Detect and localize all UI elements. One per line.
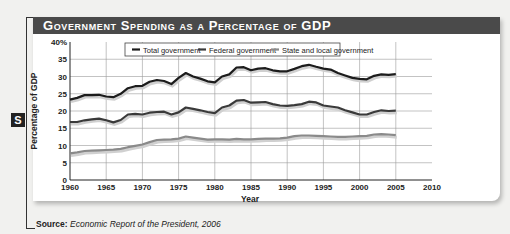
x-tick-label: 1980 — [206, 183, 224, 192]
source-label: Source: — [36, 219, 68, 229]
y-tick-label: 30 — [58, 73, 67, 82]
x-tick-label: 1985 — [242, 183, 260, 192]
y-tick-label: 35 — [58, 55, 67, 64]
series-line-0 — [70, 65, 396, 100]
x-tick-label: 1970 — [134, 183, 152, 192]
y-tick-label: 20 — [58, 107, 67, 116]
x-tick-label: 1965 — [97, 183, 115, 192]
x-tick-label: 2005 — [387, 183, 405, 192]
y-tick-label: 15 — [58, 124, 67, 133]
x-axis-label: Year — [241, 194, 260, 204]
x-tick-label: 1990 — [278, 183, 296, 192]
series-lines — [70, 65, 397, 156]
source-text: Economic Report of the President, 2006 — [70, 219, 221, 229]
y-tick-label: 25 — [58, 90, 67, 99]
x-tick-labels: 1960196519701975198019851990199520002005… — [61, 183, 441, 192]
x-tick-label: 1995 — [315, 183, 333, 192]
legend-item: Federal government — [209, 46, 277, 55]
legend-item: Total government — [143, 46, 201, 55]
x-tick-label: 1960 — [61, 183, 79, 192]
x-tick-label: 2000 — [351, 183, 369, 192]
legend-item: State and local government — [282, 46, 374, 55]
source-note: Source: Economic Report of the President… — [36, 219, 221, 229]
line-chart: 0510152025303540% 1960196519701975198019… — [0, 0, 510, 234]
y-tick-label: 40% — [51, 38, 67, 47]
legend: Total governmentFederal governmentState … — [125, 43, 374, 56]
x-tick-label: 2010 — [423, 183, 441, 192]
y-tick-label: 5 — [63, 159, 68, 168]
y-axis-label: Percentage of GDP — [29, 72, 39, 149]
x-tick-label: 1975 — [170, 183, 188, 192]
y-tick-label: 10 — [58, 142, 67, 151]
y-tick-labels: 0510152025303540% — [51, 38, 68, 185]
